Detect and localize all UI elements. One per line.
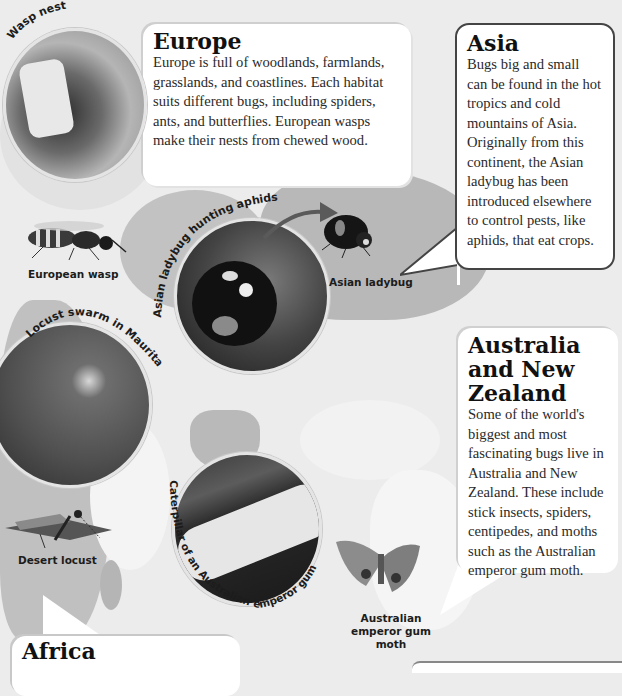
locust-swarm-caption: Locust swarm in Mauritania (0, 270, 180, 380)
svg-text:Caterpillar of an Australian e: Caterpillar of an Australian emperor gum… (145, 430, 319, 610)
africa-info-box: Africa (12, 636, 240, 696)
wasp-nest-caption: Wasp nest (0, 0, 160, 60)
asia-heading: Asia (467, 31, 603, 55)
asia-info-box: Asia Bugs big and small can be found in … (455, 23, 615, 270)
caterpillar-caption: Caterpillar of an Australian emperor gum… (150, 440, 340, 630)
australia-heading: Australia and New Zealand (468, 333, 608, 405)
africa-heading: Africa (22, 639, 230, 663)
nest-paper-layer (18, 58, 75, 140)
australia-info-box: Australia and New Zealand Some of the wo… (458, 328, 618, 573)
emperor-gum-moth-image (336, 536, 420, 602)
svg-text:Locust swarm in Mauritania: Locust swarm in Mauritania (0, 260, 166, 369)
europe-body: Europe is full of woodlands, farmlands, … (153, 53, 401, 151)
asia-body: Bugs big and small can be found in the h… (467, 55, 603, 250)
desert-locust-image (0, 500, 125, 550)
next-info-box-edge (412, 661, 622, 673)
emperor-gum-moth-label: Australian emperor gum moth (338, 612, 444, 651)
europe-info-box: Europe Europe is full of woodlands, farm… (143, 24, 411, 186)
asian-ladybug-label: Asian ladybug (329, 276, 413, 288)
australia-body: Some of the world's biggest and most fas… (468, 405, 608, 581)
desert-locust-label: Desert locust (18, 554, 97, 566)
europe-heading: Europe (153, 29, 401, 53)
european-wasp-image (14, 218, 129, 263)
africa-callout-tail (38, 595, 108, 640)
asian-ladybug-image (318, 210, 380, 260)
svg-text:Wasp nest: Wasp nest (4, 0, 67, 42)
